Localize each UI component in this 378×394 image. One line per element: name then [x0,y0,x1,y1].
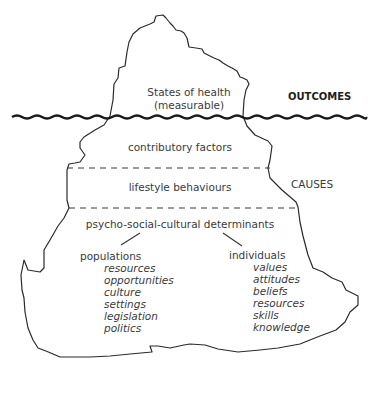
lifestyle-behaviours-label: lifestyle behaviours [129,181,232,193]
determinants-label: psycho-social-cultural determinants [86,218,274,230]
populations-item: resources [104,262,156,274]
individuals-item: skills [253,309,279,321]
iceberg-diagram: States of health (measurable) OUTCOMES c… [0,0,378,394]
states-of-health-label: States of health [147,86,230,98]
contributory-factors-label: contributory factors [128,141,232,153]
individuals-item: values [253,261,288,273]
populations-label: populations [80,250,141,262]
individuals-item: attitudes [253,273,300,285]
populations-item: legislation [104,310,158,322]
populations-item: culture [104,286,141,298]
causes-label: CAUSES [291,178,333,190]
individuals-label: individuals [229,249,285,261]
individuals-item: resources [253,297,305,309]
individuals-item: beliefs [253,285,288,297]
individuals-item: knowledge [253,321,310,333]
measurable-label: (measurable) [154,99,224,111]
populations-item: opportunities [104,274,174,286]
populations-item: settings [104,298,146,310]
populations-item: politics [103,322,142,334]
outcomes-label: OUTCOMES [288,91,351,102]
